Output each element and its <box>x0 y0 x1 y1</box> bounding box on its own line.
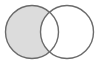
venn-diagram-figure <box>0 0 102 64</box>
venn-diagram-canvas <box>0 0 102 64</box>
